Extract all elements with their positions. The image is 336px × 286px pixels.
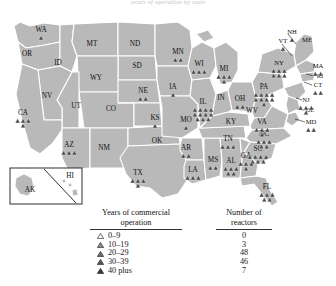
legend-divider — [90, 229, 182, 230]
state-label-hi: HI — [66, 172, 74, 180]
state-label-nd: ND — [130, 40, 140, 48]
state-label-ut: UT — [71, 102, 81, 110]
us-map-svg: WAORIDMTWYNVUTCOCAAZNMNDSDNEKSOKTXMNIAMO… — [0, 8, 336, 208]
state-label-pa: PA — [260, 83, 269, 91]
state-label-mt: MT — [87, 40, 98, 48]
legend-row: 30–39 — [80, 258, 192, 267]
state-label-va: VA — [257, 118, 267, 126]
state-label-ct: CT — [314, 81, 322, 88]
state-label-oh: OH — [235, 95, 245, 103]
state-label-ne: NE — [138, 87, 148, 95]
state-label-wv: WV — [246, 107, 259, 115]
reactor-marker — [311, 128, 316, 133]
figure-title: years of operation by state — [0, 0, 336, 6]
state-label-co: CO — [106, 105, 116, 113]
reactor-marker — [313, 91, 318, 96]
state-label-md: MD — [306, 118, 317, 125]
state-label-nv: NV — [42, 92, 53, 100]
state-label-fl: FL — [263, 183, 271, 191]
legend-count-heading: Number of reactors — [196, 208, 292, 227]
state-label-in: IN — [217, 94, 225, 102]
filled-triangle-icon — [96, 251, 105, 257]
state-label-az: AZ — [64, 141, 74, 149]
legend-row: 40 plus — [80, 267, 192, 276]
nuclear-reactor-map-figure: years of operation by state — [0, 0, 336, 286]
state-label-nh: NH — [287, 28, 297, 35]
state-label-ma: MA — [313, 62, 324, 69]
state-label-ar: AR — [181, 144, 191, 152]
legend-count-column: Number of reactors 0348467 — [196, 208, 292, 275]
state-label-wa: WA — [35, 26, 47, 34]
state-label-ky: KY — [226, 118, 237, 126]
state-label-wi: WI — [194, 60, 204, 68]
state-label-nm: NM — [98, 144, 110, 152]
reactor-marker — [270, 97, 275, 102]
legend-row: 20–29 — [80, 249, 192, 258]
map-legend: Years of commercial operation 0–910–1920… — [0, 208, 336, 286]
state-label-id: ID — [54, 59, 62, 67]
state-label-ny: NY — [274, 59, 284, 66]
state-label-mo: MO — [180, 116, 192, 124]
state-label-al: AL — [226, 157, 236, 165]
state-label-nj: NJ — [302, 96, 310, 103]
filled-triangle-icon — [96, 268, 105, 274]
legend-years-heading: Years of commercial operation — [80, 208, 192, 227]
state-label-ms: MS — [208, 156, 218, 164]
us-map: WAORIDMTWYNVUTCOCAAZNMNDSDNEKSOKTXMNIAMO… — [0, 8, 336, 208]
legend-range-label: 40 plus — [108, 267, 132, 276]
state-label-mi: MI — [220, 65, 229, 73]
open-triangle-icon — [96, 233, 105, 239]
state-label-wy: WY — [90, 74, 103, 82]
state-label-ca: CA — [18, 109, 29, 117]
state-label-ia: IA — [169, 83, 177, 91]
state-label-or: OR — [22, 50, 32, 58]
state-label-ak: AK — [25, 186, 36, 194]
filled-triangle-icon — [96, 242, 105, 248]
state-label-sd: SD — [132, 62, 141, 70]
state-label-me: ME — [302, 36, 312, 43]
legend-years-column: Years of commercial operation 0–910–1920… — [80, 208, 192, 275]
state-label-la: LA — [188, 166, 198, 174]
legend-reactor-count: 7 — [196, 267, 292, 276]
legend-row: 10–19 — [80, 241, 192, 250]
reactor-marker — [290, 38, 295, 43]
reactor-marker — [318, 91, 323, 96]
state-label-tn: TN — [223, 135, 233, 143]
reactor-marker — [306, 128, 311, 133]
legend-year-rows: 0–910–1920–2930–3940 plus — [80, 232, 192, 275]
state-label-mn: MN — [172, 48, 184, 56]
state-label-vt: VT — [279, 37, 288, 44]
state-label-ok: OK — [152, 137, 163, 145]
state-label-ks: KS — [150, 114, 159, 122]
legend-row: 0–9 — [80, 232, 192, 241]
reactor-marker — [15, 119, 20, 124]
filled-triangle-icon — [96, 259, 105, 265]
state-label-il: IL — [200, 98, 207, 106]
legend-divider — [216, 229, 272, 230]
state-label-tx: TX — [133, 169, 143, 177]
legend-count-rows: 0348467 — [196, 232, 292, 275]
